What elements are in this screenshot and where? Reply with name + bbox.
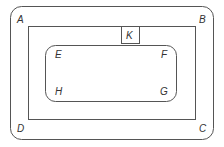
label-h: H: [55, 86, 63, 97]
label-d: D: [17, 123, 24, 134]
nested-regions-diagram: A B C D K E F G H: [0, 0, 224, 147]
label-a: A: [16, 14, 24, 25]
label-f: F: [161, 49, 168, 60]
label-c: C: [199, 123, 207, 134]
label-g: G: [160, 86, 168, 97]
inner-rounded-rectangle: [46, 46, 177, 102]
label-b: B: [199, 14, 206, 25]
label-e: E: [55, 49, 62, 60]
inner-rectangle: [29, 27, 196, 120]
